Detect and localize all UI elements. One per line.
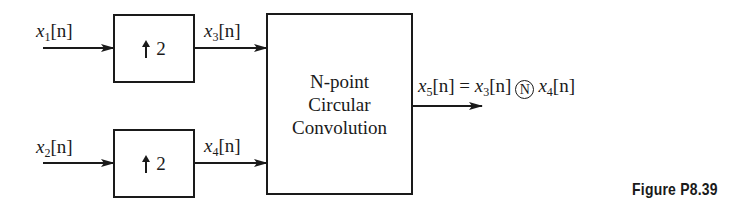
upsampler-block-bottom: 2 <box>113 129 195 198</box>
label-x2: x2[n] <box>36 137 73 156</box>
up-arrow-icon <box>142 40 150 58</box>
figure-caption: Figure P8.39 <box>632 180 718 200</box>
circular-convolution-operator-icon: N <box>515 80 534 99</box>
output-equation: x5[n] = x3[n]Nx4[n] <box>418 76 575 99</box>
circular-convolution-block: N-point Circular Convolution <box>266 13 413 195</box>
upsample-factor: 2 <box>156 153 166 175</box>
up-arrow-icon <box>142 155 150 173</box>
convolution-block-label: N-point Circular Convolution <box>292 70 387 139</box>
label-x1: x1[n] <box>36 21 73 40</box>
label-x3: x3[n] <box>204 21 241 40</box>
upsampler-block-top: 2 <box>113 14 195 83</box>
upsample-factor: 2 <box>156 38 166 60</box>
label-x4: x4[n] <box>204 136 241 155</box>
